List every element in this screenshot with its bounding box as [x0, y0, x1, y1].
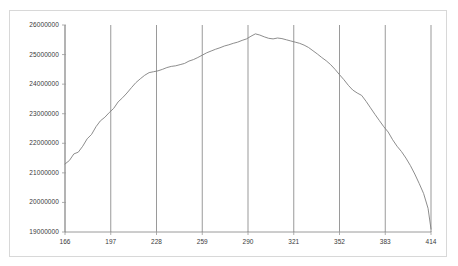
y-axis-label-22000000: 22000000	[29, 139, 59, 147]
x-axis-label-352: 352	[325, 238, 355, 246]
x-axis-label-166: 166	[50, 238, 80, 246]
x-axis-label-383: 383	[370, 238, 400, 246]
chart-container: 1900000020000000210000002200000023000000…	[0, 0, 458, 266]
y-axis-label-19000000: 19000000	[29, 228, 59, 236]
x-axis-label-321: 321	[279, 238, 309, 246]
x-axis-label-414: 414	[416, 238, 446, 246]
x-axis-label-197: 197	[96, 238, 126, 246]
y-axis-label-25000000: 25000000	[29, 51, 59, 59]
x-axis-label-228: 228	[142, 238, 172, 246]
x-axis-label-290: 290	[233, 238, 263, 246]
vertical-gridlines	[65, 25, 431, 232]
y-axis-label-24000000: 24000000	[29, 80, 59, 88]
y-axis-label-21000000: 21000000	[29, 169, 59, 177]
y-axis-label-23000000: 23000000	[29, 110, 59, 118]
x-axis-label-259: 259	[187, 238, 217, 246]
chart-plot-area	[0, 0, 458, 266]
y-axis-label-20000000: 20000000	[29, 198, 59, 206]
y-axis-label-26000000: 26000000	[29, 21, 59, 29]
